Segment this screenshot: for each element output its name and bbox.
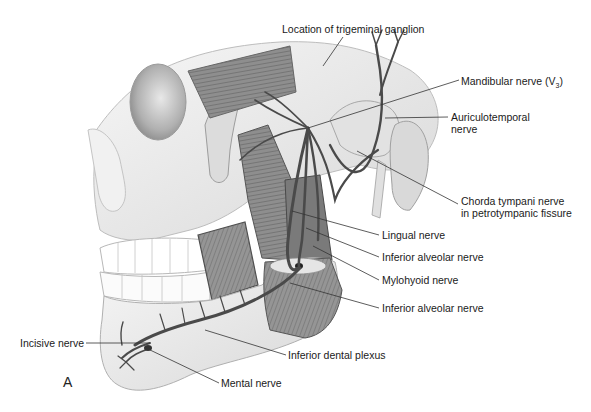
label-mylohyoid: Mylohyoid nerve: [382, 274, 458, 286]
label-auriculotemporal-1: Auriculotemporal: [451, 111, 530, 123]
panel-letter: A: [63, 374, 72, 390]
label-incisive: Incisive nerve: [20, 337, 84, 349]
label-inferior-dental-plexus: Inferior dental plexus: [288, 349, 385, 361]
orbit: [130, 64, 186, 140]
label-chorda-1: Chorda tympani nerve: [461, 195, 564, 207]
label-inferior-alveolar-2: Inferior alveolar nerve: [382, 302, 484, 314]
label-mandibular: Mandibular nerve (V3): [461, 75, 563, 92]
label-trigeminal: Location of trigeminal ganglion: [282, 23, 424, 35]
anatomy-figure: Location of trigeminal ganglionMandibula…: [0, 0, 591, 412]
label-inferior-alveolar-1: Inferior alveolar nerve: [382, 251, 484, 263]
label-auriculotemporal-2: nerve: [451, 123, 477, 135]
label-mental: Mental nerve: [221, 377, 282, 389]
teeth: [100, 238, 210, 302]
label-lingual: Lingual nerve: [382, 229, 445, 241]
label-chorda-2: in petrotympanic fissure: [461, 207, 572, 219]
